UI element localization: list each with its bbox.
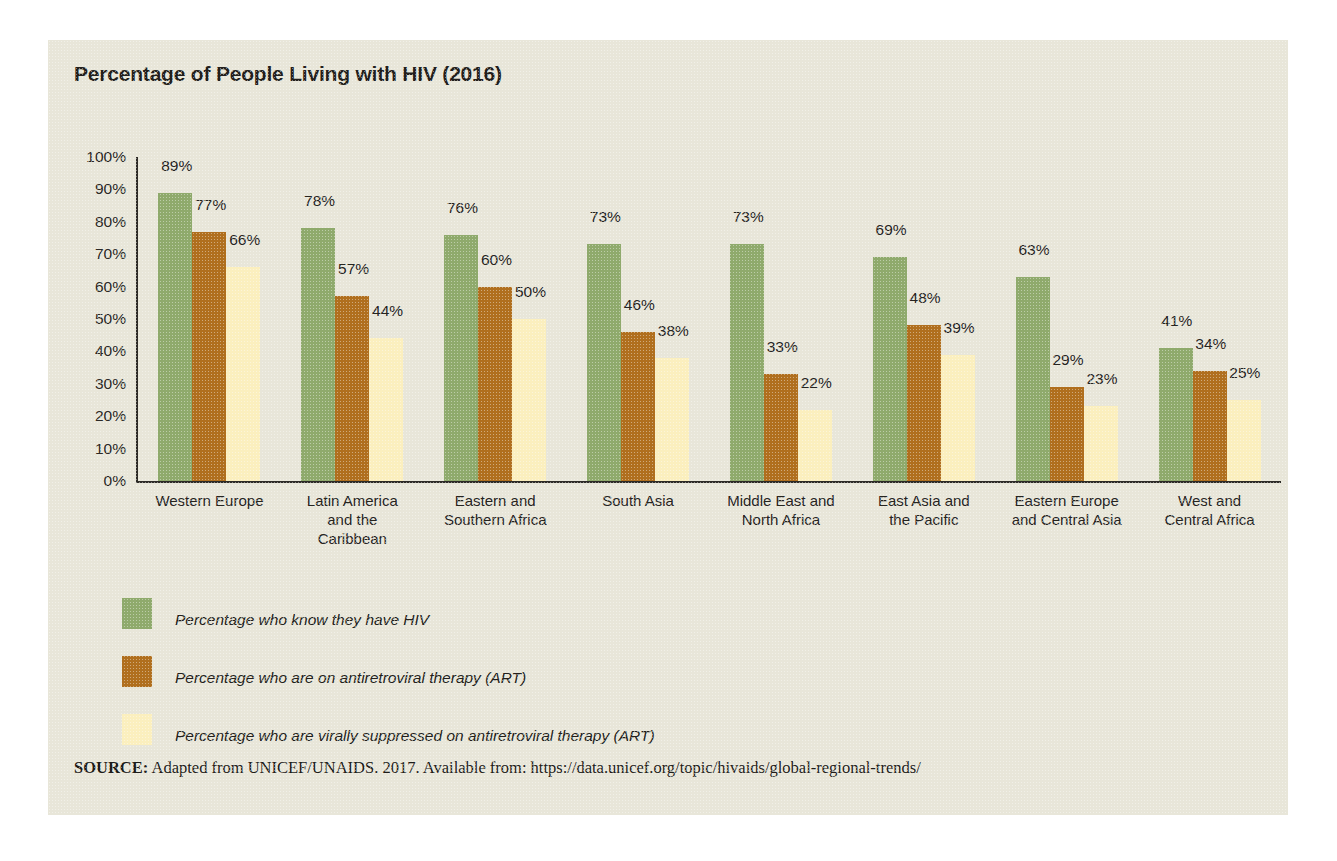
bar-column: 89% (158, 157, 192, 481)
y-axis-tick-label: 0% (66, 472, 126, 490)
bar[interactable] (512, 319, 546, 481)
bar[interactable] (907, 325, 941, 481)
bar-column: 46% (621, 157, 655, 481)
legend-swatch-virally-suppressed (122, 714, 152, 745)
bar-value-label: 60% (481, 251, 512, 269)
bar-column: 34% (1193, 157, 1227, 481)
bar-value-label: 73% (590, 208, 621, 226)
bar-column: 25% (1227, 157, 1261, 481)
legend-item-label: Percentage who are virally suppressed on… (175, 727, 655, 745)
bar[interactable] (1227, 400, 1261, 481)
bar-value-label: 89% (161, 157, 192, 175)
bar[interactable] (1193, 371, 1227, 481)
bar-value-label: 66% (229, 231, 260, 249)
bar[interactable] (730, 244, 764, 481)
bar[interactable] (478, 287, 512, 481)
source-text: Adapted from UNICEF/UNAIDS. 2017. Availa… (148, 758, 920, 777)
bar-column: 60% (478, 157, 512, 481)
chart-legend: Percentage who know they have HIVPercent… (122, 598, 1222, 772)
bar-value-label: 33% (767, 338, 798, 356)
bar-value-label: 77% (195, 196, 226, 214)
bar-group: 78%57%44%Latin Americaand theCaribbean (281, 157, 424, 481)
y-axis-tick-label: 90% (66, 180, 126, 198)
bar[interactable] (1050, 387, 1084, 481)
figure-card: Percentage of People Living with HIV (20… (48, 40, 1288, 815)
bar-group: 73%33%22%Middle East andNorth Africa (710, 157, 853, 481)
bar-group-bars: 41%34%25% (1138, 157, 1281, 481)
bar-value-label: 46% (624, 296, 655, 314)
bar[interactable] (444, 235, 478, 481)
bar-column: 66% (226, 157, 260, 481)
bar-value-label: 23% (1086, 370, 1117, 388)
legend-item-label: Percentage who are on antiretroviral the… (175, 669, 526, 687)
bar[interactable] (192, 232, 226, 481)
bar-group-bars: 73%46%38% (567, 157, 710, 481)
bar-column: 57% (335, 157, 369, 481)
bar[interactable] (335, 296, 369, 481)
bar-group: 63%29%23%Eastern Europeand Central Asia (995, 157, 1138, 481)
bar-value-label: 22% (801, 374, 832, 392)
bar-value-label: 38% (658, 322, 689, 340)
y-axis-tick-label: 20% (66, 407, 126, 425)
y-axis-tick-label: 30% (66, 375, 126, 393)
bar-column: 73% (587, 157, 621, 481)
bar-column: 63% (1016, 157, 1050, 481)
bar-group-bars: 73%33%22% (710, 157, 853, 481)
bar[interactable] (798, 410, 832, 481)
bar-column: 76% (444, 157, 478, 481)
legend-swatch-on-art (122, 656, 152, 687)
bar[interactable] (655, 358, 689, 481)
y-axis-tick-label: 100% (66, 148, 126, 166)
bar[interactable] (158, 193, 192, 481)
bar-group-bars: 69%48%39% (852, 157, 995, 481)
source-label: SOURCE: (74, 758, 148, 777)
bar[interactable] (873, 257, 907, 481)
bar[interactable] (587, 244, 621, 481)
bar-value-label: 78% (304, 192, 335, 210)
legend-item[interactable]: Percentage who know they have HIV (122, 598, 1222, 656)
source-note: SOURCE: Adapted from UNICEF/UNAIDS. 2017… (74, 758, 921, 778)
bar[interactable] (1016, 277, 1050, 481)
bar[interactable] (301, 228, 335, 481)
y-axis-tick-label: 70% (66, 245, 126, 263)
bar-column: 77% (192, 157, 226, 481)
bar-column: 33% (764, 157, 798, 481)
bar[interactable] (1159, 348, 1193, 481)
y-axis-tick-label: 60% (66, 278, 126, 296)
plot-area: 0%10%20%30%40%50%60%70%80%90%100% 89%77%… (136, 157, 1281, 481)
bar[interactable] (1084, 406, 1118, 481)
y-axis-tick-label: 80% (66, 213, 126, 231)
bar-column: 78% (301, 157, 335, 481)
bar[interactable] (621, 332, 655, 481)
bar-column: 38% (655, 157, 689, 481)
bar-group-bars: 89%77%66% (138, 157, 281, 481)
legend-swatch-know-hiv (122, 598, 152, 629)
x-axis-category-label: West andCentral Africa (1124, 491, 1295, 529)
bar-group-bars: 78%57%44% (281, 157, 424, 481)
bar[interactable] (764, 374, 798, 481)
legend-item-label: Percentage who know they have HIV (175, 611, 429, 629)
bar[interactable] (941, 355, 975, 481)
y-axis-tick-label: 10% (66, 440, 126, 458)
bar-column: 39% (941, 157, 975, 481)
bar-column: 69% (873, 157, 907, 481)
bar[interactable] (369, 338, 403, 481)
bar-value-label: 57% (338, 260, 369, 278)
bar-group: 73%46%38%South Asia (567, 157, 710, 481)
legend-item[interactable]: Percentage who are on antiretroviral the… (122, 656, 1222, 714)
y-axis-tick-label: 50% (66, 310, 126, 328)
bar-value-label: 76% (447, 199, 478, 217)
chart-title: Percentage of People Living with HIV (20… (74, 62, 502, 86)
bar[interactable] (226, 267, 260, 481)
x-axis-line (136, 481, 1281, 483)
bar-group: 69%48%39%East Asia andthe Pacific (852, 157, 995, 481)
bar-column: 22% (798, 157, 832, 481)
bar-group-bars: 76%60%50% (424, 157, 567, 481)
bar-value-label: 63% (1018, 241, 1049, 259)
bar-value-label: 29% (1052, 351, 1083, 369)
bar-group: 41%34%25%West andCentral Africa (1138, 157, 1281, 481)
bar-group-bars: 63%29%23% (995, 157, 1138, 481)
y-axis-tick-label: 40% (66, 342, 126, 360)
bar-value-label: 48% (910, 289, 941, 307)
bar-value-label: 44% (372, 302, 403, 320)
